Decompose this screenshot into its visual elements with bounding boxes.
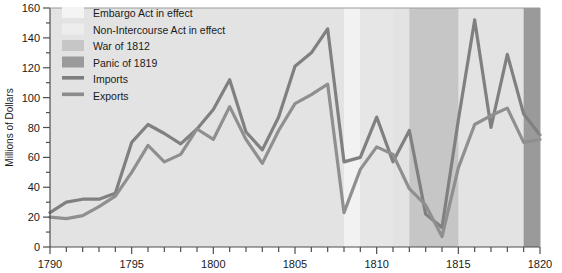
x-tick-label: 1800 — [201, 258, 225, 270]
band-embargo-act-in-effect — [344, 8, 360, 247]
y-tick-label: 100 — [22, 92, 40, 104]
y-axis-title: Millions of Dollars — [4, 88, 15, 166]
x-tick-label: 1805 — [283, 258, 307, 270]
x-tick-label: 1790 — [38, 258, 62, 270]
y-tick-label: 60 — [28, 151, 40, 163]
legend-label-5: Exports — [93, 90, 129, 102]
legend-line-5 — [62, 93, 84, 97]
x-tick-label: 1795 — [119, 258, 143, 270]
y-tick-label: 160 — [22, 2, 40, 14]
legend-label-3: Panic of 1819 — [93, 57, 157, 69]
legend-label-1: Non-Intercourse Act in effect — [93, 24, 225, 36]
legend-swatch-0 — [62, 7, 84, 18]
legend-swatch-3 — [62, 57, 84, 68]
legend-label-0: Embargo Act in effect — [93, 7, 193, 19]
legend-swatch-1 — [62, 24, 84, 35]
legend-swatch-2 — [62, 40, 84, 51]
band-panic-of-1819 — [524, 8, 540, 247]
x-tick-label: 1810 — [364, 258, 388, 270]
y-tick-label: 40 — [28, 181, 40, 193]
legend-label-4: Imports — [93, 73, 128, 85]
y-tick-label: 120 — [22, 62, 40, 74]
line-chart: 0204060801001201401601790179518001805181… — [0, 0, 562, 273]
band-non-intercourse-act-in-effect — [360, 8, 393, 247]
band-war-of-1812 — [409, 8, 458, 247]
legend-label-2: War of 1812 — [93, 40, 150, 52]
x-tick-label: 1815 — [446, 258, 470, 270]
y-tick-label: 20 — [28, 211, 40, 223]
legend-line-4 — [62, 76, 84, 80]
x-tick-label: 1820 — [528, 258, 552, 270]
y-tick-label: 140 — [22, 32, 40, 44]
chart-figure: 0204060801001201401601790179518001805181… — [0, 0, 562, 273]
y-tick-label: 0 — [34, 241, 40, 253]
y-tick-label: 80 — [28, 122, 40, 134]
